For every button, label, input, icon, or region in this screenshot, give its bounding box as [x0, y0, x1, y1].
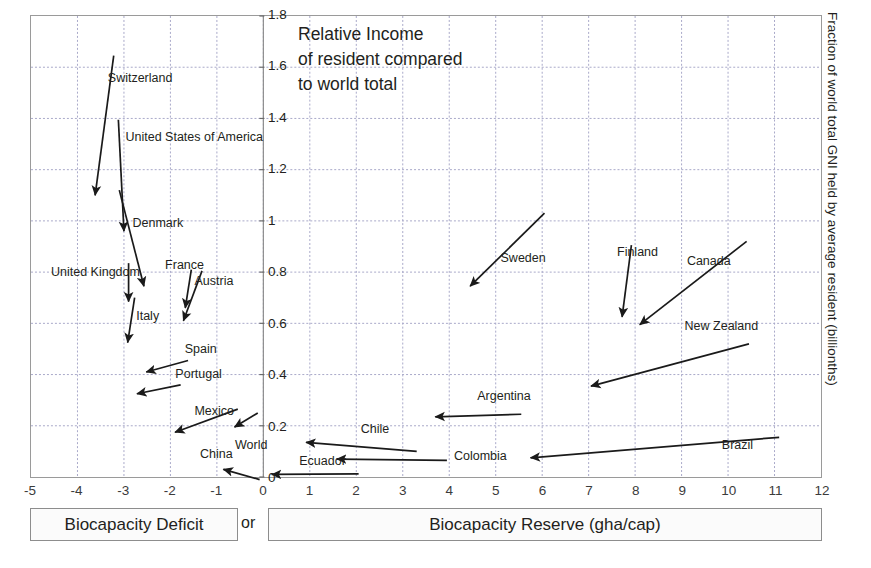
- country-label: United Kingdom: [51, 265, 140, 279]
- data-arrow: [223, 469, 259, 479]
- country-label: Mexico: [194, 404, 234, 418]
- data-arrow: [118, 120, 124, 231]
- country-label: United States of America: [126, 130, 264, 144]
- chart-root: Relative Income of resident compared to …: [0, 0, 871, 568]
- country-label: World: [235, 438, 267, 452]
- x-axis-tick-label: 1: [306, 483, 314, 499]
- y-axis-tick-label: 1.4: [268, 110, 287, 126]
- country-label: Ecuador: [299, 454, 346, 468]
- data-arrow: [470, 213, 544, 286]
- y-axis-tick-label: 1: [268, 213, 276, 229]
- country-label: Italy: [136, 309, 159, 323]
- or-label: or: [241, 514, 255, 532]
- country-label: Colombia: [454, 449, 507, 463]
- x-axis-tick-label: 3: [399, 483, 407, 499]
- x-axis-tick-label: -3: [117, 483, 129, 499]
- x-axis-tick-label: -4: [71, 483, 83, 499]
- data-arrow: [272, 474, 359, 475]
- y-axis-tick-label: 1.2: [268, 161, 287, 177]
- biocapacity-deficit-box: Biocapacity Deficit: [30, 508, 238, 541]
- country-label: Spain: [185, 342, 217, 356]
- country-label: Canada: [687, 254, 731, 268]
- y-axis-label: Fraction of world total GNI held by aver…: [816, 12, 840, 482]
- data-arrow: [591, 344, 749, 386]
- data-arrow: [306, 442, 417, 451]
- data-arrow: [337, 459, 447, 460]
- y-axis-tick-label: 0: [268, 470, 276, 486]
- country-label: Brazil: [722, 438, 753, 452]
- country-label: Portugal: [175, 367, 222, 381]
- x-axis-tick-label: 0: [259, 483, 267, 499]
- data-arrow: [435, 414, 521, 417]
- country-label: Chile: [361, 422, 390, 436]
- country-label: Sweden: [501, 251, 546, 265]
- x-axis-tick-label: 11: [768, 483, 782, 499]
- x-axis-tick-label: 5: [492, 483, 500, 499]
- y-axis-tick-label: 0.2: [268, 419, 287, 435]
- country-label: China: [200, 447, 233, 461]
- country-label: Denmark: [132, 216, 183, 230]
- x-axis-tick-label: -2: [164, 483, 176, 499]
- x-axis-tick-label: -5: [24, 483, 36, 499]
- data-arrow: [137, 385, 181, 394]
- x-axis-tick-label: 9: [678, 483, 686, 499]
- y-axis-tick-label: 1.8: [268, 7, 287, 23]
- x-axis-tick-label: 10: [721, 483, 736, 499]
- data-arrow: [128, 298, 135, 343]
- country-label: Finland: [617, 245, 658, 259]
- country-label: New Zealand: [685, 319, 759, 333]
- country-label: Austria: [194, 274, 233, 288]
- x-axis-tick-label: 4: [446, 483, 454, 499]
- biocapacity-reserve-box: Biocapacity Reserve (gha/cap): [268, 508, 822, 541]
- chart-title: Relative Income of resident compared to …: [298, 22, 462, 97]
- y-axis-tick-label: 0.8: [268, 264, 287, 280]
- x-axis-tick-label: -1: [210, 483, 222, 499]
- footer-legend: Biocapacity Deficit or Biocapacity Reser…: [0, 508, 871, 546]
- y-axis-tick-label: 1.6: [268, 58, 287, 74]
- x-axis-tick-label: 7: [585, 483, 593, 499]
- x-axis-tick-label: 12: [814, 483, 829, 499]
- country-label: France: [165, 258, 204, 272]
- y-axis-tick-label: 0.6: [268, 316, 287, 332]
- x-axis-tick-label: 2: [352, 483, 360, 499]
- x-axis-tick-label: 6: [539, 483, 547, 499]
- country-label: Switzerland: [108, 71, 173, 85]
- data-arrow: [235, 413, 258, 427]
- country-label: Argentina: [477, 389, 531, 403]
- y-axis-tick-label: 0.4: [268, 367, 287, 383]
- x-axis-tick-label: 8: [632, 483, 640, 499]
